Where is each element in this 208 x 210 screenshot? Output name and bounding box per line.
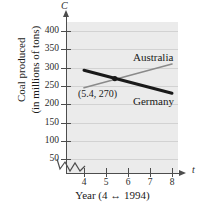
- intersection-point-marker: [112, 76, 117, 81]
- series-line-australia: [84, 64, 172, 88]
- coal-production-chart: C t 50100150200250300350400 45678 Austra…: [0, 0, 208, 210]
- x-axis-title: Year (4 ↔ 1994): [40, 190, 185, 201]
- intersection-point-label: (5.4, 270): [78, 89, 117, 99]
- series-label-australia: Australia: [133, 52, 173, 63]
- y-axis-title-line1: Coal produced: [15, 0, 29, 146]
- y-axis-title: Coal produced (in millions of tons): [15, 0, 43, 146]
- series-label-germany: Germany: [133, 96, 174, 107]
- y-axis-title-line2: (in millions of tons): [29, 0, 43, 146]
